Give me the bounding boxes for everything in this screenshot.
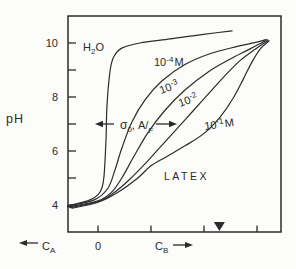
- sigma-annotation-text: σ0, A/F: [120, 118, 153, 135]
- y-tick-label-10: 10: [46, 37, 58, 49]
- x-axis-ticks: [98, 226, 257, 233]
- right-arrow-icon: [169, 121, 177, 127]
- left-arrow-icon: [95, 121, 103, 127]
- x-axis-marker: [214, 222, 225, 231]
- ca-left-arrow-icon: [19, 240, 27, 246]
- y-tick-label-8: 8: [52, 91, 58, 103]
- y-axis-title: pH: [6, 112, 24, 126]
- y-tick-label-4: 4: [52, 199, 58, 211]
- y-tick-label-6: 6: [52, 145, 58, 157]
- curve-label-1e-2: 10-2: [176, 90, 199, 109]
- curve-label-h2o: H2O: [83, 41, 104, 56]
- latex-label: LATEX: [164, 170, 209, 182]
- chart-canvas: 10864 pH H2O 10-4M 10-3 10-2 10-1M LATEX…: [0, 0, 296, 269]
- x-zero-label: 0: [95, 240, 101, 252]
- cb-label: CB: [155, 240, 168, 255]
- ca-label: CA: [42, 240, 56, 255]
- curve-label-1e-1: 10-1M: [203, 115, 234, 132]
- sigma-annotation: σ0, A/F: [95, 118, 177, 135]
- curve-label-1e-3: 10-3: [157, 77, 180, 96]
- y-axis-ticks: [68, 43, 76, 205]
- cb-right-arrow-icon: [185, 242, 193, 248]
- y-axis-tick-labels: 10864: [46, 37, 58, 211]
- titration-figure: 10864 pH H2O 10-4M 10-3 10-2 10-1M LATEX…: [0, 0, 296, 269]
- curve-label-1e-4: 10-4M: [154, 55, 184, 68]
- x-axis-annotations: CA 0 CB: [19, 240, 193, 255]
- axis-marker-triangle-icon: [214, 222, 225, 231]
